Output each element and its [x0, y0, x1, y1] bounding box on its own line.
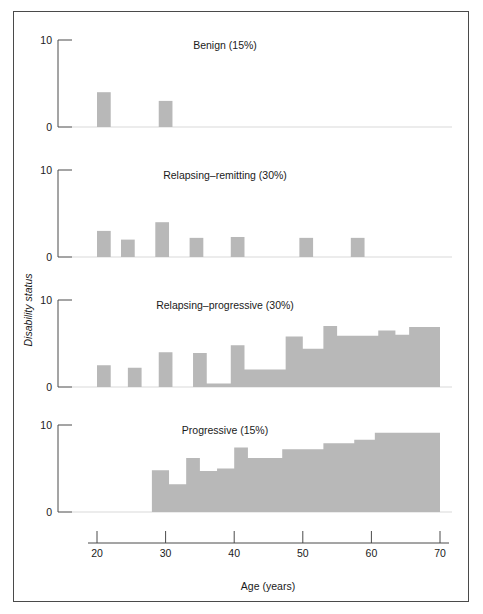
- y-tick-label-max: 10: [40, 294, 52, 306]
- panel-relapsing-progressive: 100Relapsing–progressive (30%): [40, 294, 452, 393]
- chart-canvas: Disability status 100Benign (15%)100Rela…: [0, 0, 483, 614]
- bar: [159, 101, 173, 127]
- panel-y-axis: [58, 40, 72, 127]
- x-tick-label: 50: [297, 547, 309, 559]
- bar: [190, 238, 204, 257]
- y-tick-label-max: 10: [40, 164, 52, 176]
- y-tick-label-max: 10: [40, 419, 52, 431]
- figure-root: Disability status 100Benign (15%)100Rela…: [0, 0, 483, 614]
- bar: [121, 240, 135, 257]
- y-axis-title: Disability status: [22, 273, 34, 347]
- y-tick-label-min: 0: [46, 506, 52, 518]
- x-axis: 203040506070: [88, 531, 449, 559]
- x-tick-label: 30: [160, 547, 172, 559]
- panel-y-axis: [58, 300, 72, 387]
- panels-group: 100Benign (15%)100Relapsing–remitting (3…: [40, 34, 452, 518]
- bar: [97, 92, 111, 127]
- y-tick-label-min: 0: [46, 251, 52, 263]
- x-axis-title: Age (years): [241, 580, 295, 592]
- bar: [155, 222, 169, 257]
- panel-title-benign: Benign (15%): [193, 39, 257, 51]
- y-tick-label-min: 0: [46, 121, 52, 133]
- bar: [231, 237, 245, 257]
- step-area: [97, 326, 440, 387]
- bar: [351, 238, 365, 257]
- panel-y-axis: [58, 170, 72, 257]
- x-tick-label: 60: [366, 547, 378, 559]
- x-tick-label: 20: [91, 547, 103, 559]
- y-tick-label-max: 10: [40, 34, 52, 46]
- panel-title-relapsing-remitting: Relapsing–remitting (30%): [163, 169, 287, 181]
- panel-title-progressive: Progressive (15%): [182, 424, 268, 436]
- panel-title-relapsing-progressive: Relapsing–progressive (30%): [156, 299, 294, 311]
- panel-progressive: 100Progressive (15%): [40, 419, 452, 518]
- panel-y-axis: [58, 425, 72, 512]
- step-area: [152, 433, 440, 512]
- panel-benign: 100Benign (15%): [40, 34, 452, 133]
- x-tick-label: 70: [434, 547, 446, 559]
- bar: [97, 231, 111, 257]
- y-tick-label-min: 0: [46, 381, 52, 393]
- panel-relapsing-remitting: 100Relapsing–remitting (30%): [40, 164, 452, 263]
- bar: [299, 238, 313, 257]
- x-tick-label: 40: [228, 547, 240, 559]
